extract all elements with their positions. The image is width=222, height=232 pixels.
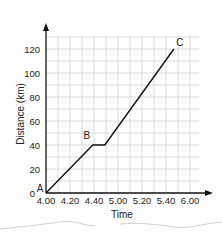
x-axis-arrow-icon bbox=[205, 190, 213, 196]
y-axis-arrow-icon bbox=[43, 23, 49, 31]
distance-time-chart: 4.004.204.405.005.205.406.00 02040608010… bbox=[0, 0, 222, 232]
x-tick-labels: 4.004.204.405.005.205.406.00 bbox=[37, 195, 200, 206]
y-tick-label: 120 bbox=[24, 44, 40, 55]
point-label-c: C bbox=[176, 37, 183, 48]
point-label-b: B bbox=[83, 130, 90, 141]
y-tick-label: 20 bbox=[29, 164, 40, 175]
x-tick-label: 4.20 bbox=[61, 195, 80, 206]
y-axis-label: Distance (km) bbox=[15, 83, 26, 145]
y-tick-label: 60 bbox=[29, 116, 40, 127]
x-tick-label: 5.00 bbox=[109, 195, 128, 206]
x-tick-label: 6.00 bbox=[181, 195, 200, 206]
x-axis-label: Time bbox=[111, 209, 133, 220]
point-labels: ABC bbox=[37, 37, 184, 194]
y-tick-label: 100 bbox=[24, 68, 40, 79]
x-tick-label: 5.40 bbox=[157, 195, 176, 206]
x-tick-label: 4.00 bbox=[37, 195, 56, 206]
x-tick-label: 5.20 bbox=[133, 195, 152, 206]
y-tick-label: 80 bbox=[29, 92, 40, 103]
x-tick-label: 4.40 bbox=[85, 195, 104, 206]
y-tick-label: 40 bbox=[29, 140, 40, 151]
point-label-a: A bbox=[37, 183, 44, 194]
y-tick-labels: 020406080100120 bbox=[24, 44, 40, 199]
page-edge-decoration bbox=[0, 222, 222, 229]
y-tick-label: 0 bbox=[30, 188, 35, 199]
